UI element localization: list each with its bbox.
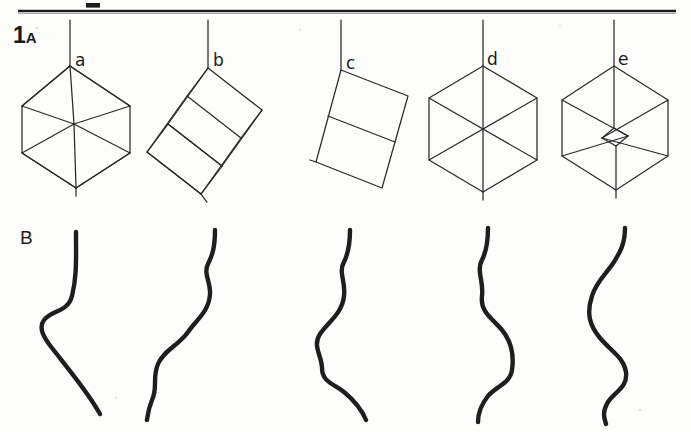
scan-artifacts [0, 0, 691, 432]
figure-1-root: 1A B a b c d e [0, 0, 691, 432]
